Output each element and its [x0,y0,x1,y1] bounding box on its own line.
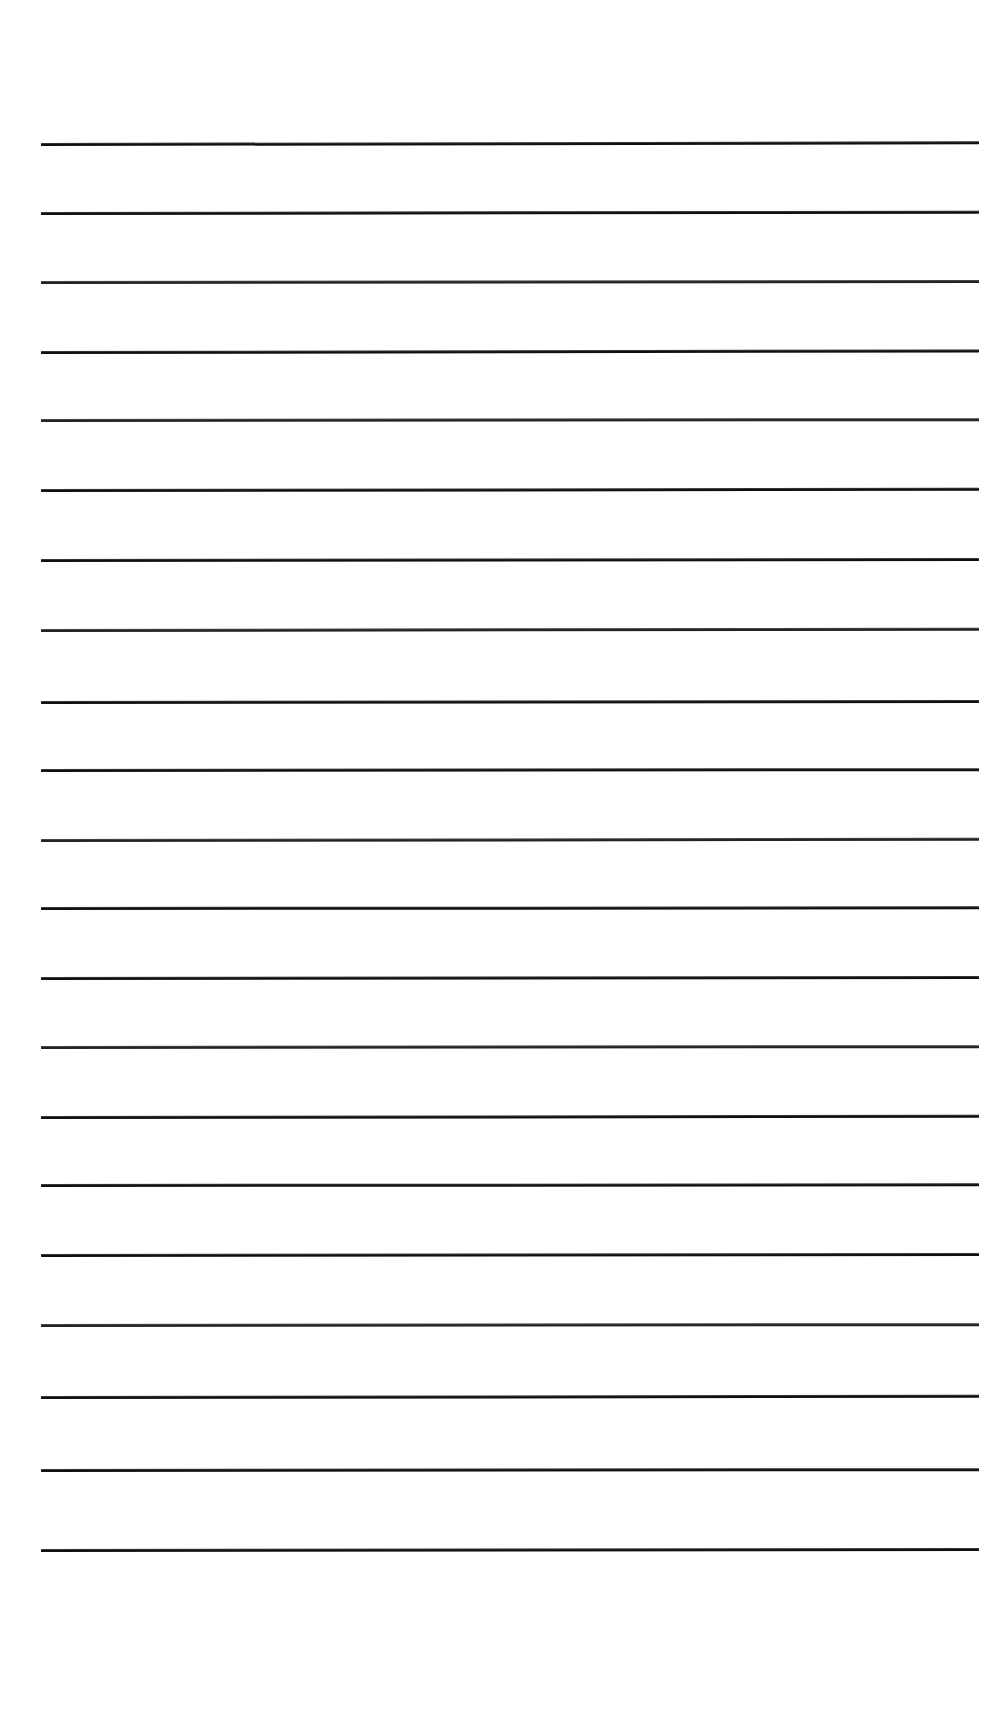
scanned-page [0,0,998,1710]
ruled-line-11 [41,837,979,841]
paper-sheet [0,0,998,1710]
ruled-line-3 [41,280,979,284]
ruled-line-19 [41,1394,979,1398]
ruled-line-17 [41,1253,979,1257]
ruled-line-16 [41,1183,979,1187]
ruled-line-2 [41,210,979,214]
ruled-line-5 [41,418,979,422]
ruled-line-20 [41,1468,979,1472]
ruled-line-14 [41,1045,979,1049]
ruled-line-21 [41,1548,979,1552]
ruled-line-10 [41,768,979,772]
ruled-line-8 [41,627,979,631]
ruled-line-9 [41,700,979,704]
ruled-line-13 [41,976,979,980]
ruled-line-15 [41,1114,979,1118]
ruled-line-6 [41,487,979,491]
ruled-line-18 [41,1323,979,1327]
ruled-line-7 [41,558,979,562]
ruled-line-12 [41,906,979,910]
